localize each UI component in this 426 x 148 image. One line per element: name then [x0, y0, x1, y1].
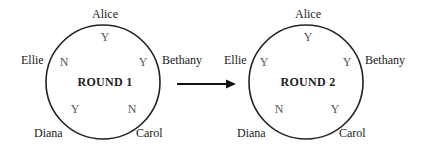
name-alice: Alice — [92, 8, 118, 20]
round2-title: ROUND 2 — [280, 76, 335, 88]
name-bethany: Bethany — [365, 54, 405, 66]
name-ellie: Ellie — [21, 54, 44, 66]
vote-alice: Y — [101, 31, 110, 43]
round1-title: ROUND 1 — [77, 76, 132, 88]
vote-carol: N — [128, 103, 137, 115]
name-diana: Diana — [34, 127, 63, 139]
vote-diana: Y — [71, 103, 80, 115]
name-alice: Alice — [295, 8, 321, 20]
vote-ellie: N — [60, 56, 69, 68]
vote-bethany: Y — [343, 56, 352, 68]
arrow-icon — [177, 80, 236, 89]
name-ellie: Ellie — [224, 54, 247, 66]
name-diana: Diana — [237, 127, 266, 139]
vote-alice: Y — [304, 31, 313, 43]
name-carol: Carol — [136, 127, 163, 139]
name-carol: Carol — [339, 127, 366, 139]
vote-carol: Y — [331, 103, 340, 115]
name-bethany: Bethany — [162, 54, 202, 66]
vote-bethany: Y — [139, 56, 148, 68]
vote-ellie: Y — [260, 56, 269, 68]
vote-diana: N — [275, 103, 284, 115]
